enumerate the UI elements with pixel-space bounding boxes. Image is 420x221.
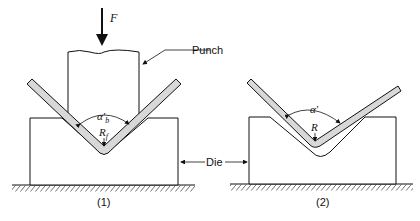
caption-1: (1) (97, 197, 110, 208)
ground-hatch-1 (12, 186, 195, 192)
die-label: Die (206, 157, 223, 168)
diagram-1-bottoming (12, 8, 210, 192)
diagram-2-airbending (225, 79, 413, 191)
punch-label: Punch (192, 45, 223, 56)
caption-2: (2) (316, 197, 329, 208)
radius-label-2: R (311, 122, 318, 133)
die-2 (249, 117, 396, 184)
force-label: F (110, 12, 117, 24)
ground-hatch-2 (230, 185, 413, 191)
angle-label-2: α′ (310, 104, 318, 115)
radius-label-1: Rf (99, 127, 108, 141)
bending-diagram (0, 0, 420, 221)
punch (68, 50, 139, 118)
angle-label-1: α′b (97, 111, 109, 125)
